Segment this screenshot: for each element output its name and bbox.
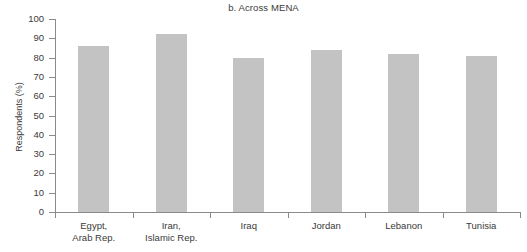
y-axis-tick-label: 20 xyxy=(0,168,44,178)
y-axis-tick-label: 70 xyxy=(0,72,44,82)
x-axis-category-label: Tunisia xyxy=(443,220,521,232)
x-axis-tick xyxy=(133,212,134,218)
y-axis-tick-label: 80 xyxy=(0,53,44,63)
x-axis-category-label: Iraq xyxy=(210,220,288,232)
x-axis-tick xyxy=(520,212,521,218)
bar xyxy=(156,34,187,212)
y-axis-tick-label: 0 xyxy=(0,207,44,217)
x-axis-category-label: Jordan xyxy=(288,220,366,232)
y-axis-tick-label: 10 xyxy=(0,188,44,198)
bar xyxy=(233,58,264,212)
y-axis-tick-label: 30 xyxy=(0,149,44,159)
bar xyxy=(311,50,342,212)
y-axis-tick-label: 50 xyxy=(0,111,44,121)
bar xyxy=(466,56,497,212)
y-axis-tick-label: 100 xyxy=(0,14,44,24)
x-axis-tick xyxy=(365,212,366,218)
x-axis-category-label: Egypt, Arab Rep. xyxy=(55,220,133,243)
x-axis-category-label: Lebanon xyxy=(365,220,443,232)
bar-chart: b. Across MENA Respondents (%) 010203040… xyxy=(0,0,527,252)
x-axis-tick xyxy=(288,212,289,218)
y-axis-tick-label: 40 xyxy=(0,130,44,140)
y-axis-tick-label: 60 xyxy=(0,91,44,101)
x-axis-tick xyxy=(443,212,444,218)
y-axis-tick-label: 90 xyxy=(0,33,44,43)
bar xyxy=(388,54,419,212)
x-axis-category-label: Iran, Islamic Rep. xyxy=(133,220,211,243)
x-axis-tick xyxy=(210,212,211,218)
plot-area xyxy=(55,19,520,212)
bar xyxy=(78,46,109,212)
x-axis-tick xyxy=(55,212,56,218)
chart-title: b. Across MENA xyxy=(0,2,527,13)
